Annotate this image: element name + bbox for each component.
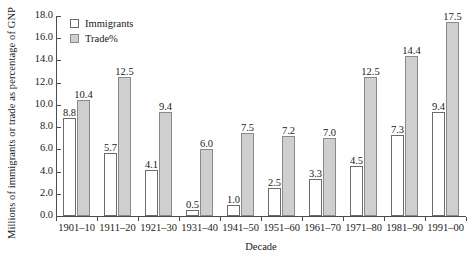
x-axis-tick-label: 1921–30 — [140, 222, 177, 233]
bar-value-label: 6.0 — [200, 138, 213, 149]
y-axis-tick-label: 14.0 — [35, 53, 53, 64]
x-axis-tick-mark — [466, 217, 467, 221]
y-axis-tick-mark — [57, 16, 61, 17]
bar-trade: 10.4 — [77, 100, 90, 216]
bar-group: 9.417.5 — [432, 16, 459, 216]
x-axis-tick-mark — [138, 217, 139, 221]
y-axis-title: Millions of immigrants or trade as perce… — [6, 3, 22, 243]
y-axis-tick: 14.0 — [56, 60, 61, 61]
y-axis-line — [56, 16, 57, 217]
bar-value-label: 2.5 — [268, 177, 281, 188]
x-axis-tick-mark — [425, 217, 426, 221]
bar-value-label: 9.4 — [432, 101, 445, 112]
bar-trade: 17.5 — [446, 22, 459, 216]
bar-group: 0.56.0 — [186, 16, 213, 216]
x-axis-tick-label: 1961–70 — [304, 222, 341, 233]
bar-value-label: 4.5 — [350, 155, 363, 166]
bar-value-label: 17.5 — [443, 11, 461, 22]
y-axis-tick-mark — [57, 216, 61, 217]
bar-immigrants: 2.5 — [268, 188, 281, 216]
bar-value-label: 14.4 — [402, 45, 420, 56]
plot-area: 0.02.04.06.08.010.012.014.016.018.0 8.81… — [56, 16, 466, 217]
bar-value-label: 10.4 — [74, 89, 92, 100]
y-axis-tick-label: 6.0 — [40, 142, 53, 153]
y-axis-tick: 12.0 — [56, 83, 61, 84]
bar-value-label: 4.1 — [145, 159, 158, 170]
bar-trade: 14.4 — [405, 56, 418, 216]
x-axis-title: Decade — [56, 241, 466, 252]
bar-value-label: 0.5 — [186, 199, 199, 210]
y-axis-tick-label: 16.0 — [35, 31, 53, 42]
bar-group: 4.512.5 — [350, 16, 377, 216]
bar-trade: 12.5 — [364, 77, 377, 216]
x-axis-tick-mark — [384, 217, 385, 221]
bar-trade: 12.5 — [118, 77, 131, 216]
y-axis-tick: 10.0 — [56, 105, 61, 106]
x-axis-tick-label: 1941–50 — [222, 222, 259, 233]
bar-immigrants: 0.5 — [186, 210, 199, 216]
bar-value-label: 5.7 — [104, 142, 117, 153]
y-axis-tick: 18.0 — [56, 16, 61, 17]
y-axis-tick-mark — [57, 38, 61, 39]
y-axis-tick-mark — [57, 149, 61, 150]
bar-value-label: 7.0 — [323, 127, 336, 138]
x-axis-tick-mark — [220, 217, 221, 221]
y-axis-tick-label: 12.0 — [35, 76, 53, 87]
x-axis-tick-mark — [302, 217, 303, 221]
bar-group: 2.57.2 — [268, 16, 295, 216]
y-axis-tick-mark — [57, 105, 61, 106]
y-axis-tick-label: 0.0 — [40, 209, 53, 220]
y-axis-tick: 2.0 — [56, 194, 61, 195]
bar-trade: 9.4 — [159, 112, 172, 216]
bar-group: 5.712.5 — [104, 16, 131, 216]
x-axis-tick-mark — [56, 217, 57, 221]
bar-immigrants: 4.1 — [145, 170, 158, 216]
bar-group: 1.07.5 — [227, 16, 254, 216]
y-axis-tick-label: 10.0 — [35, 98, 53, 109]
bar-value-label: 7.2 — [282, 125, 295, 136]
y-axis-tick-mark — [57, 194, 61, 195]
bar-immigrants: 8.8 — [63, 118, 76, 216]
x-axis-tick-label: 1951–60 — [263, 222, 300, 233]
x-axis-tick-label: 1991–00 — [427, 222, 464, 233]
y-axis-tick: 16.0 — [56, 38, 61, 39]
chart-figure: Millions of immigrants or trade as perce… — [0, 0, 475, 269]
x-axis-tick-mark — [179, 217, 180, 221]
bar-value-label: 12.5 — [115, 66, 133, 77]
bar-value-label: 9.4 — [159, 101, 172, 112]
y-axis-tick: 8.0 — [56, 127, 61, 128]
y-axis-tick-label: 4.0 — [40, 165, 53, 176]
x-axis-tick-label: 1911–20 — [99, 222, 135, 233]
x-axis-tick-label: 1931–40 — [181, 222, 218, 233]
bar-value-label: 8.8 — [63, 107, 76, 118]
y-axis-tick: 6.0 — [56, 149, 61, 150]
y-axis-tick-label: 18.0 — [35, 9, 53, 20]
bar-immigrants: 5.7 — [104, 153, 117, 216]
bar-trade: 7.0 — [323, 138, 336, 216]
x-axis-tick-label: 1901–10 — [58, 222, 95, 233]
y-axis-tick-mark — [57, 127, 61, 128]
bar-group: 4.19.4 — [145, 16, 172, 216]
bar-group: 3.37.0 — [309, 16, 336, 216]
bar-immigrants: 3.3 — [309, 179, 322, 216]
bar-immigrants: 4.5 — [350, 166, 363, 216]
x-axis-tick-mark — [261, 217, 262, 221]
y-axis-tick: 4.0 — [56, 172, 61, 173]
bar-value-label: 7.5 — [241, 122, 254, 133]
bar-value-label: 7.3 — [391, 124, 404, 135]
bar-trade: 7.5 — [241, 133, 254, 216]
y-axis-tick-mark — [57, 83, 61, 84]
x-axis-tick-label: 1971–80 — [345, 222, 382, 233]
bar-trade: 7.2 — [282, 136, 295, 216]
bar-group: 7.314.4 — [391, 16, 418, 216]
bar-immigrants: 9.4 — [432, 112, 445, 216]
bar-value-label: 12.5 — [361, 66, 379, 77]
bar-group: 8.810.4 — [63, 16, 90, 216]
bar-immigrants: 7.3 — [391, 135, 404, 216]
bar-trade: 6.0 — [200, 149, 213, 216]
bar-value-label: 1.0 — [227, 194, 240, 205]
bar-value-label: 3.3 — [309, 168, 322, 179]
bar-immigrants: 1.0 — [227, 205, 240, 216]
y-axis-tick-label: 2.0 — [40, 187, 53, 198]
y-axis-tick-mark — [57, 172, 61, 173]
